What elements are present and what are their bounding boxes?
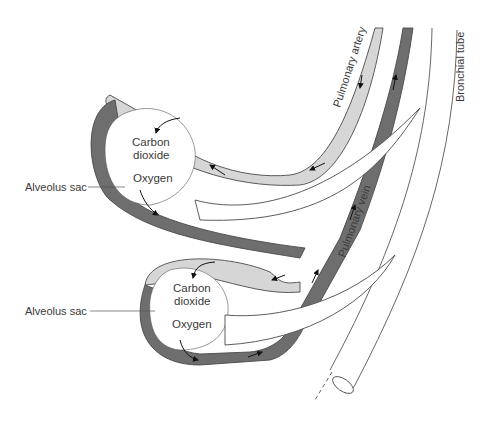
co2-label-upper-2: dioxide xyxy=(133,149,169,161)
bronchiole-branches xyxy=(195,108,420,345)
bronchial-tube xyxy=(315,28,457,400)
co2-label-lower-2: dioxide xyxy=(174,295,210,307)
co2-label-upper: Carbon xyxy=(132,136,170,148)
alveoli-diagram: Carbon dioxide Oxygen Carbon dioxide Oxy… xyxy=(0,0,487,435)
pulmonary-vein-label: Pulmonary vein xyxy=(336,183,373,258)
o2-label-lower: Oxygen xyxy=(172,318,212,330)
alveolus-sac-label-lower: Alveolus sac xyxy=(25,305,87,317)
alveolus-sac-label-upper: Alveolus sac xyxy=(25,181,87,193)
bronchial-tube-label: Bronchial tube xyxy=(454,32,466,102)
o2-label-upper: Oxygen xyxy=(133,172,173,184)
co2-label-lower: Carbon xyxy=(173,282,211,294)
